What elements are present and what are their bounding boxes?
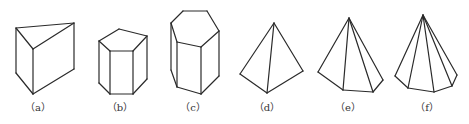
edge-line	[373, 80, 383, 92]
edge-line	[318, 18, 349, 72]
edge-line	[452, 75, 457, 86]
triangular-pyramid-d	[240, 23, 303, 93]
edge-line	[177, 87, 201, 94]
edge-line	[99, 29, 119, 41]
edge-line	[99, 83, 110, 94]
edge-line	[423, 15, 457, 75]
hexagonal-pyramid-f	[395, 15, 457, 92]
label-e: （e）	[335, 102, 361, 113]
edge-line	[16, 23, 74, 28]
polyhedra-diagram: （a） （b） （c） （d） （e） （f）	[0, 0, 469, 124]
edge-line	[395, 76, 408, 88]
edge-line	[267, 23, 274, 93]
edge-line	[201, 76, 219, 94]
edge-line	[343, 18, 349, 90]
label-a: （a）	[25, 102, 51, 113]
edge-line	[408, 15, 423, 88]
edge-line	[434, 86, 452, 92]
edge-line	[171, 70, 177, 87]
edge-line	[16, 73, 33, 94]
edge-line	[318, 72, 343, 90]
edge-line	[201, 31, 219, 47]
edge-line	[240, 74, 267, 93]
edge-line	[423, 15, 452, 86]
triangular-prism-a	[16, 23, 74, 94]
edge-line	[423, 15, 434, 92]
pentagonal-pyramid-e	[318, 18, 383, 92]
polyhedra-figure: （a） （b） （c） （d） （e） （f）	[0, 0, 469, 124]
edge-line	[16, 28, 33, 49]
edge-line	[171, 23, 177, 42]
hexagonal-prism-c	[171, 11, 219, 94]
edge-line	[171, 11, 183, 23]
pentagonal-prism-b	[99, 29, 147, 94]
edge-line	[33, 69, 74, 94]
edge-line	[267, 71, 303, 93]
edge-line	[99, 41, 110, 51]
label-d: （d）	[254, 102, 280, 113]
label-f: （f）	[415, 102, 439, 113]
edge-line	[207, 11, 219, 31]
edge-line	[133, 79, 147, 94]
edge-line	[408, 88, 434, 92]
label-b: （b）	[107, 102, 133, 113]
edge-line	[395, 15, 423, 76]
edge-line	[133, 36, 147, 51]
edge-line	[33, 23, 74, 49]
edge-line	[240, 23, 274, 74]
edge-line	[274, 23, 303, 71]
label-c: （c）	[180, 102, 206, 113]
edge-line	[343, 90, 373, 92]
edge-line	[177, 42, 201, 47]
edge-line	[119, 29, 147, 36]
